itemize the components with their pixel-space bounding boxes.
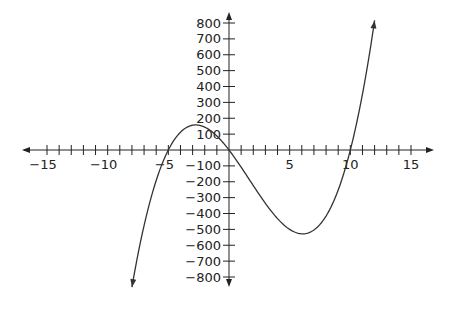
- y-tick-label: 600: [196, 47, 221, 62]
- curve-left-arrow-icon: [130, 279, 136, 287]
- x-axis-left-arrow-icon: [22, 147, 30, 153]
- y-tick-label: 200: [196, 111, 221, 126]
- y-tick-label: −200: [185, 174, 221, 189]
- y-tick-label: −700: [185, 254, 221, 269]
- y-tick-label: −100: [185, 158, 221, 173]
- x-tick-label: −15: [29, 157, 56, 172]
- y-tick-label: 700: [196, 31, 221, 46]
- y-tick-label: 300: [196, 95, 221, 110]
- x-tick-label: −10: [90, 157, 117, 172]
- y-tick-label: −300: [185, 190, 221, 205]
- y-tick-label: 800: [196, 16, 221, 31]
- y-tick-label: −500: [185, 222, 221, 237]
- y-tick-label: 500: [196, 63, 221, 78]
- y-axis-down-arrow-icon: [226, 279, 232, 287]
- y-tick-label: −600: [185, 238, 221, 253]
- x-tick-label: 15: [403, 157, 420, 172]
- curve-right-arrow-icon: [370, 20, 376, 28]
- x-axis-right-arrow-icon: [426, 147, 434, 153]
- y-tick-label: −400: [185, 206, 221, 221]
- x-tick-label: 5: [286, 157, 294, 172]
- y-tick-label: 400: [196, 79, 221, 94]
- y-axis-up-arrow-icon: [226, 12, 232, 20]
- y-tick-label: −800: [185, 270, 221, 285]
- cubic-function-plot: −15−10−551015800700600500400300200100−10…: [0, 0, 449, 309]
